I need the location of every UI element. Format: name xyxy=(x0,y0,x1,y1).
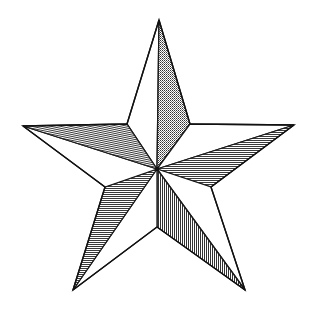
star-icon xyxy=(0,0,314,311)
star-illustration xyxy=(0,0,314,311)
star-center-dot xyxy=(155,167,159,171)
